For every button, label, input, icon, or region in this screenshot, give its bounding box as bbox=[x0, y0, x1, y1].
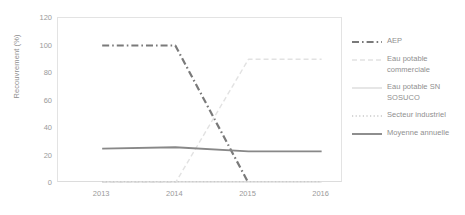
chart-figure: Recouvrement (%) 020406080100120 2013201… bbox=[0, 0, 465, 215]
y-tick-label: 20 bbox=[26, 150, 52, 159]
x-tick-label: 2016 bbox=[312, 189, 329, 198]
legend-item[interactable]: Moyenne annuelle bbox=[352, 128, 465, 139]
y-tick-label: 120 bbox=[26, 13, 52, 22]
series-line bbox=[102, 59, 321, 183]
x-tick-label: 2013 bbox=[93, 189, 110, 198]
legend-item[interactable]: AEP bbox=[352, 36, 465, 47]
legend-label: Eau potable SN SOSUCO bbox=[387, 82, 465, 103]
legend-line-swatch-icon bbox=[352, 55, 382, 65]
x-tick-label: 2015 bbox=[239, 189, 256, 198]
y-axis-ticks: 020406080100120 bbox=[24, 0, 52, 215]
y-tick-label: 40 bbox=[26, 123, 52, 132]
y-tick-label: 80 bbox=[26, 68, 52, 77]
legend-label: Moyenne annuelle bbox=[387, 128, 449, 139]
x-tick-label: 2014 bbox=[166, 189, 183, 198]
legend-label: AEP bbox=[387, 36, 402, 47]
chart-legend: AEPEau potable commercialeEau potable SN… bbox=[352, 36, 465, 146]
series-line bbox=[102, 46, 248, 184]
legend-item[interactable]: Eau potable SN SOSUCO bbox=[352, 82, 465, 103]
y-axis-title: Recouvrement (%) bbox=[12, 7, 21, 127]
legend-line-swatch-icon bbox=[352, 129, 382, 139]
y-tick-label: 0 bbox=[26, 178, 52, 187]
legend-label: Secteur industriel bbox=[387, 110, 446, 121]
series-line bbox=[102, 147, 321, 151]
legend-item[interactable]: Eau potable commerciale bbox=[352, 54, 465, 75]
y-tick-label: 60 bbox=[26, 95, 52, 104]
plot-area bbox=[57, 17, 342, 182]
series-lines bbox=[58, 18, 343, 183]
legend-line-swatch-icon bbox=[352, 111, 382, 121]
legend-line-swatch-icon bbox=[352, 37, 382, 47]
legend-label: Eau potable commerciale bbox=[387, 54, 465, 75]
y-tick-label: 100 bbox=[26, 40, 52, 49]
legend-item[interactable]: Secteur industriel bbox=[352, 110, 465, 121]
legend-line-swatch-icon bbox=[352, 83, 382, 93]
